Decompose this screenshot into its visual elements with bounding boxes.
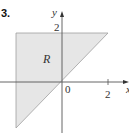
region-label: R [42,52,51,66]
problem-number: 3. [1,7,10,19]
y-axis-arrow-icon [60,11,64,17]
x-axis-label: x [125,83,129,95]
region-diagram: 3. y 2 R 0 2 x [0,0,129,133]
y-axis-label: y [51,6,57,18]
x-tick-label: 2 [105,88,111,100]
y-tick-label: 2 [54,21,60,33]
origin-label: 0 [65,83,71,95]
